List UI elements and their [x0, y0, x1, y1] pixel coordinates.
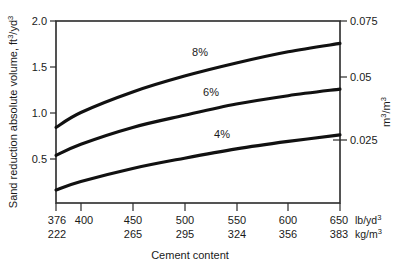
y-tick-right-1: 0.05: [350, 71, 371, 83]
x-tick-secondary-3: 295: [176, 228, 194, 240]
x-tick-secondary-2: 265: [124, 228, 142, 240]
curve-label-6pct: 6%: [203, 86, 219, 98]
y-axis-left-title: Sand reduction absolute volume, ft3/yd3: [6, 16, 19, 208]
x-tick-secondary-5: 356: [279, 228, 297, 240]
x-tick-secondary-0: 222: [48, 228, 66, 240]
x-tick-primary-5: 600: [279, 214, 297, 226]
curve-label-8pct: 8%: [192, 46, 208, 58]
x-tick-primary-2: 450: [124, 214, 142, 226]
x-tick-secondary-6: 383: [330, 228, 348, 240]
y-tick-left-1: 1.5: [32, 61, 47, 73]
x-tick-primary-4: 550: [228, 214, 246, 226]
x-tick-secondary-4: 324: [228, 228, 246, 240]
y-tick-left-0: 2.0: [32, 15, 47, 27]
x-tick-primary-3: 500: [176, 214, 194, 226]
y-tick-left-3: 0.5: [32, 153, 47, 165]
chart-figure: 2.0 1.5 1.0 0.5 0.075 0.05 0.025: [0, 0, 399, 267]
y-tick-left-2: 1.0: [32, 107, 47, 119]
y-axis-right-title: m3/m3: [379, 97, 392, 127]
y-tick-right-0: 0.075: [350, 15, 378, 27]
chart-svg: 2.0 1.5 1.0 0.5 0.075 0.05 0.025: [0, 0, 399, 267]
x-tick-primary-1: 400: [75, 214, 93, 226]
x-tick-primary-6: 650: [330, 214, 348, 226]
x-axis-title: Cement content: [151, 249, 229, 261]
y-tick-right-2: 0.025: [350, 134, 378, 146]
curve-label-4pct: 4%: [214, 128, 230, 140]
x-tick-primary-0: 376: [48, 214, 66, 226]
